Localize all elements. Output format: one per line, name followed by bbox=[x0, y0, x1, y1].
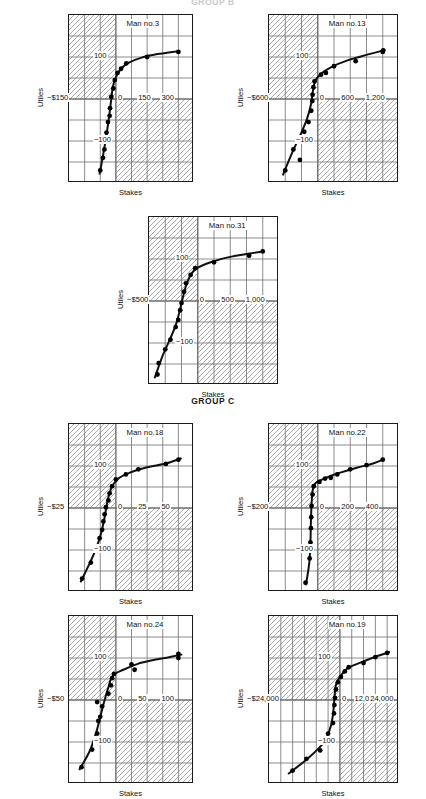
data-point bbox=[334, 687, 339, 692]
data-point bbox=[97, 536, 102, 541]
x-axis-title-man-24: Stakes bbox=[68, 789, 193, 798]
data-point bbox=[163, 462, 168, 467]
y-tick-label: 100 bbox=[295, 460, 310, 469]
data-point bbox=[106, 498, 111, 503]
x-tick-label: 50 bbox=[160, 502, 170, 511]
data-point bbox=[297, 158, 302, 163]
data-point bbox=[98, 168, 103, 173]
data-point bbox=[373, 655, 378, 660]
y-tick-label: −100 bbox=[93, 135, 112, 144]
data-point bbox=[168, 337, 173, 342]
y-tick-label: −100 bbox=[175, 337, 194, 346]
subject-label-man-3: Man no.3 bbox=[126, 19, 161, 28]
y-tick-label: 100 bbox=[93, 51, 108, 60]
data-point bbox=[338, 675, 343, 680]
data-point bbox=[380, 457, 385, 462]
data-point bbox=[156, 361, 161, 366]
data-point bbox=[304, 756, 309, 761]
data-point bbox=[145, 55, 150, 60]
x-axis-title-man-19: Stakes bbox=[268, 789, 398, 798]
data-point bbox=[176, 50, 181, 55]
data-point bbox=[309, 515, 314, 520]
subject-label-man-19: Man no.19 bbox=[328, 620, 367, 629]
data-point bbox=[124, 61, 129, 66]
data-point bbox=[309, 504, 314, 509]
x-tick-label: −$50 bbox=[46, 694, 65, 703]
y-tick-label: −100 bbox=[317, 736, 336, 745]
x-tick-label: 0 bbox=[117, 502, 123, 511]
data-point bbox=[311, 484, 316, 489]
data-point bbox=[309, 526, 314, 531]
data-point bbox=[291, 147, 296, 152]
subject-label-man-18: Man no.18 bbox=[126, 428, 165, 437]
y-tick-label: −100 bbox=[295, 544, 314, 553]
x-axis-title-man-3: Stakes bbox=[68, 188, 193, 197]
data-point bbox=[353, 59, 358, 64]
y-axis-title-man-18: Utiles bbox=[36, 487, 45, 527]
data-point bbox=[302, 129, 307, 134]
x-tick-label: 400 bbox=[365, 502, 380, 511]
y-tick-label: −100 bbox=[93, 544, 112, 553]
data-point bbox=[361, 661, 366, 666]
x-tick-label: 0 bbox=[117, 694, 123, 703]
x-axis-title-man-13: Stakes bbox=[268, 188, 398, 197]
x-tick-label: 300 bbox=[160, 93, 175, 102]
x-tick-label: −$200 bbox=[246, 502, 269, 511]
x-tick-label: −$600 bbox=[246, 93, 269, 102]
data-point bbox=[381, 48, 386, 53]
data-point bbox=[331, 721, 336, 726]
data-point bbox=[310, 99, 315, 104]
x-axis-title-man-31: Stakes bbox=[148, 390, 278, 399]
x-tick-label: 24,000 bbox=[369, 694, 394, 703]
data-point bbox=[212, 260, 217, 265]
data-point bbox=[132, 667, 137, 672]
group-heading-b: GROUP B bbox=[0, 0, 426, 7]
data-point bbox=[309, 108, 314, 113]
data-point bbox=[110, 676, 115, 681]
y-tick-label: 100 bbox=[175, 253, 190, 262]
x-tick-label: −$24,000 bbox=[246, 694, 280, 703]
data-point bbox=[193, 266, 198, 271]
data-point bbox=[101, 155, 106, 160]
x-tick-label: 150 bbox=[137, 93, 152, 102]
data-point bbox=[182, 289, 187, 294]
y-tick-label: −100 bbox=[295, 135, 314, 144]
x-tick-label: 500 bbox=[220, 295, 235, 304]
data-point bbox=[346, 665, 351, 670]
data-point bbox=[101, 519, 106, 524]
x-tick-label: 200 bbox=[340, 502, 355, 511]
data-point bbox=[310, 492, 315, 497]
y-tick-label: 100 bbox=[93, 460, 108, 469]
x-tick-label: 600 bbox=[340, 93, 355, 102]
figure-page: GROUP B GROUP C Man no.3−$1500150300−100… bbox=[0, 0, 426, 799]
subject-label-man-31: Man no.31 bbox=[208, 221, 247, 230]
data-point bbox=[108, 106, 113, 111]
data-point bbox=[310, 92, 315, 97]
y-axis-title-man-3: Utiles bbox=[36, 78, 45, 118]
data-point bbox=[348, 467, 353, 472]
x-axis-title-man-18: Stakes bbox=[68, 597, 193, 606]
data-point bbox=[173, 325, 178, 330]
data-point bbox=[318, 748, 323, 753]
data-point bbox=[96, 719, 101, 724]
data-point bbox=[323, 71, 328, 76]
data-point bbox=[88, 560, 93, 565]
data-point bbox=[112, 78, 117, 83]
data-point bbox=[176, 457, 181, 462]
data-point bbox=[364, 463, 369, 468]
data-point bbox=[109, 95, 114, 100]
data-point bbox=[385, 651, 390, 656]
y-tick-label: 100 bbox=[93, 652, 108, 661]
y-tick-label: 100 bbox=[295, 51, 310, 60]
x-tick-label: 0 bbox=[319, 502, 325, 511]
subject-label-man-22: Man no.22 bbox=[328, 428, 367, 437]
x-tick-label: −$150 bbox=[46, 93, 69, 102]
x-tick-label: 100 bbox=[160, 694, 175, 703]
data-point bbox=[323, 476, 328, 481]
data-point bbox=[312, 79, 317, 84]
data-point bbox=[332, 64, 337, 69]
data-point bbox=[115, 71, 120, 76]
data-point bbox=[79, 765, 84, 770]
data-point bbox=[188, 273, 193, 278]
data-point bbox=[90, 747, 95, 752]
